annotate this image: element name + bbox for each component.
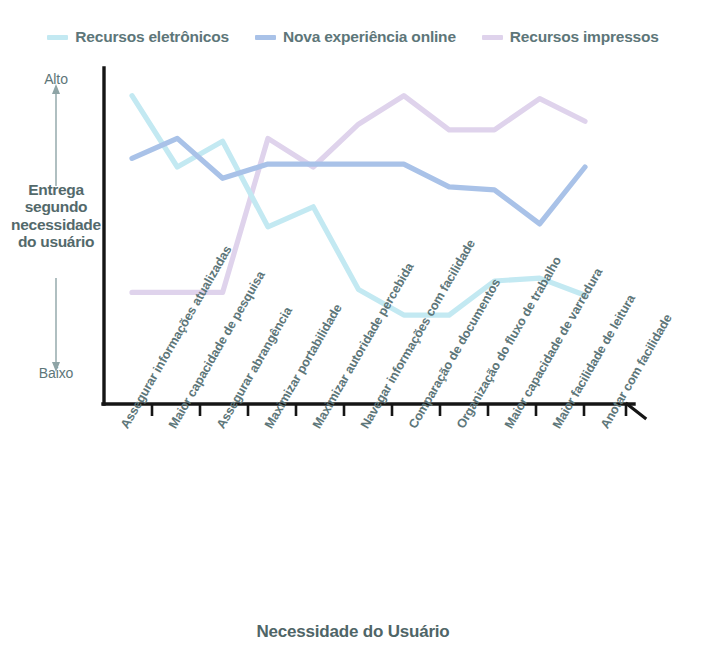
x-axis-label-8: Maior capacidade de varredura <box>502 266 605 431</box>
x-axis-label-1: Maior capacidade de pesquisa <box>166 269 268 431</box>
x-axis-label-6: Comparação de documentos <box>406 276 503 431</box>
x-axis-labels: Assegurar informações atualizadas Maior … <box>0 0 706 661</box>
x-axis-label-4: Maximizar autoridade percebida <box>310 261 417 431</box>
x-axis-label-9: Maior facilidade de leitura <box>550 292 638 431</box>
x-axis-title: Necessidade do Usuário <box>0 622 706 642</box>
chart-container: Recursos eletrônicos Nova experiência on… <box>0 0 706 661</box>
